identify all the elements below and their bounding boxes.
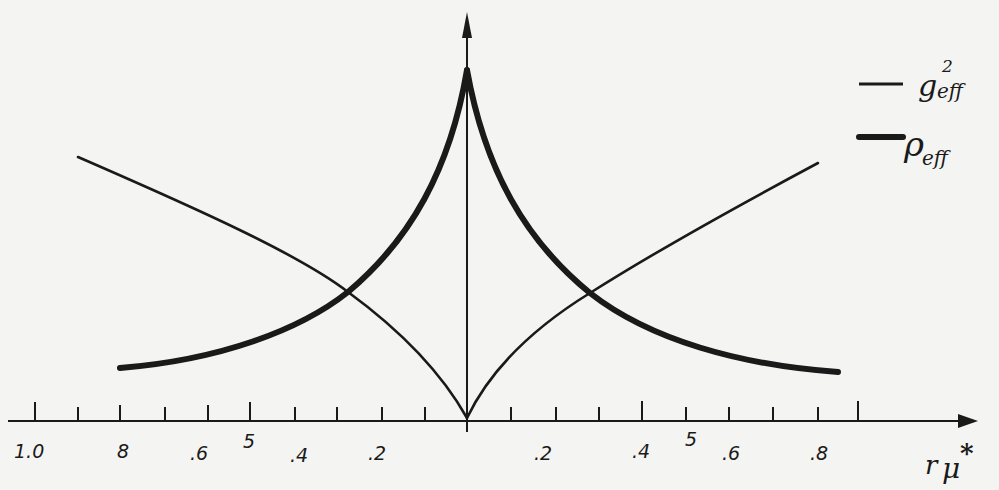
legend-g-sup: 2 — [941, 56, 953, 76]
tick-label: .6 — [722, 442, 740, 464]
tick-label: .8 — [810, 442, 828, 464]
legend-g-symbol: g — [918, 68, 937, 103]
y-axis-arrow-icon — [462, 12, 472, 38]
tick-label: .2 — [368, 442, 386, 464]
tick-label: 8 — [117, 440, 129, 462]
legend-rho-sub: eff — [922, 146, 952, 170]
x-tick-labels-right: .2 .4 5 .6 .8 — [534, 428, 828, 464]
series-g2-eff — [78, 157, 818, 418]
x-axis-label: r μ * — [925, 438, 974, 485]
legend: g 2 eff ρ eff — [859, 56, 967, 170]
tick-label: .6 — [190, 442, 208, 464]
x-label-mu: μ — [942, 452, 960, 485]
tick-label: .4 — [290, 444, 308, 466]
x-axis — [8, 401, 978, 428]
x-tick-labels-left: 1.0 8 .6 5 .4 .2 — [14, 430, 386, 466]
tick-label: 5 — [685, 428, 697, 450]
tick-label: 1.0 — [14, 440, 44, 462]
legend-rho-symbol: ρ — [903, 124, 924, 164]
series-rho-eff — [120, 70, 838, 372]
tick-label: 5 — [243, 430, 255, 452]
legend-g-sub: eff — [937, 79, 967, 103]
tick-label: .4 — [632, 440, 650, 462]
x-axis-ticks — [35, 401, 858, 421]
chart-canvas: 1.0 8 .6 5 .4 .2 .2 .4 5 .6 .8 r μ * g 2… — [0, 0, 999, 490]
x-label-r: r — [925, 450, 939, 480]
tick-label: .2 — [534, 442, 552, 464]
x-label-star: * — [960, 438, 974, 468]
x-axis-arrow-icon — [958, 414, 978, 428]
legend-item-rho-eff: ρ eff — [859, 124, 952, 170]
legend-item-g2-eff: g 2 eff — [859, 56, 967, 103]
